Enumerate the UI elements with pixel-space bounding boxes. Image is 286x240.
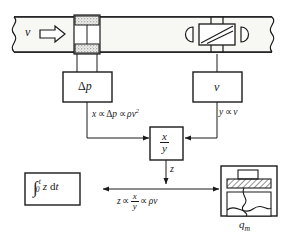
delta-p-block-label: Δp [78,80,92,92]
orifice-plate-lower-restriction [75,44,99,53]
proportional-icon-3: ∝ [223,107,233,117]
orifice-plate [74,15,100,54]
y-relation-rhs: v [233,107,237,117]
z-relation-v: v [153,196,157,206]
proportional-icon: ∝ [96,109,106,119]
y-relation-label: y∝v [219,108,237,118]
fraction-denominator: y [160,143,169,154]
differential-t: t [56,180,59,192]
pipe-flow-label: v [25,26,30,38]
display-knob [238,170,258,179]
x-relation-exponent: 2 [136,107,139,114]
divider-block-label: x y [160,131,169,154]
proportional-icon-2: ∝ [117,109,127,119]
z-relation-fraction: xy [131,192,139,211]
diagram-canvas: v Δp v x∝Δp∝ρv2 y∝v x y z ∫t0zdt z∝xy∝ρv… [0,0,286,240]
q-subscript-m: m [245,224,251,233]
z-signal-label: z [170,164,174,174]
integrator-block-label: ∫t0zdt [33,178,59,196]
mass-flow-output-label: qm [239,219,250,233]
signal-path-y [185,102,217,138]
integral-limits: t0 [36,178,41,193]
p-symbol: p [86,79,92,93]
velocity-block-label: v [214,81,219,93]
z-fraction-denominator: y [131,202,139,211]
proportional-icon-4: ∝ [121,196,131,206]
x-relation-label: x∝Δp∝ρv2 [92,108,139,120]
integral-lower-limit: 0 [36,186,41,194]
x-over-y-fraction: x y [160,131,169,154]
display-register-band [227,179,271,188]
orifice-plate-upper-restriction [75,16,99,25]
display-base [227,192,271,216]
delta-symbol: Δ [78,79,86,93]
z-relation-label: z∝xy∝ρv [117,192,157,211]
totalizer-display[interactable] [221,166,277,216]
pipe-assembly [12,15,273,54]
integrand-z: z [43,180,47,192]
proportional-icon-5: ∝ [139,196,149,206]
